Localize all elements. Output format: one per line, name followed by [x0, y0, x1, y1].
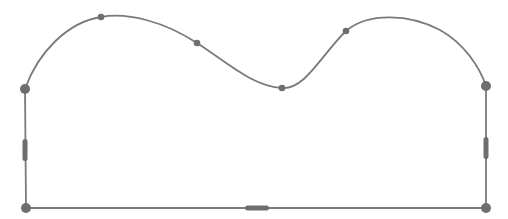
- curve-point-2[interactable]: [194, 40, 201, 47]
- shape-editor: [0, 0, 508, 219]
- top-curve-segment[interactable]: [25, 16, 486, 89]
- right-edge-handle[interactable]: [484, 137, 489, 159]
- left-edge-handle[interactable]: [23, 139, 28, 161]
- curve-point-3[interactable]: [279, 85, 286, 92]
- corner-anchor-top-left[interactable]: [20, 84, 30, 94]
- bottom-edge-handle[interactable]: [245, 206, 269, 211]
- corner-anchor-bottom-right[interactable]: [481, 203, 491, 213]
- corner-anchor-top-right[interactable]: [481, 81, 491, 91]
- curve-point-1[interactable]: [98, 14, 105, 21]
- curve-point-4[interactable]: [343, 28, 350, 35]
- corner-anchor-bottom-left[interactable]: [21, 203, 31, 213]
